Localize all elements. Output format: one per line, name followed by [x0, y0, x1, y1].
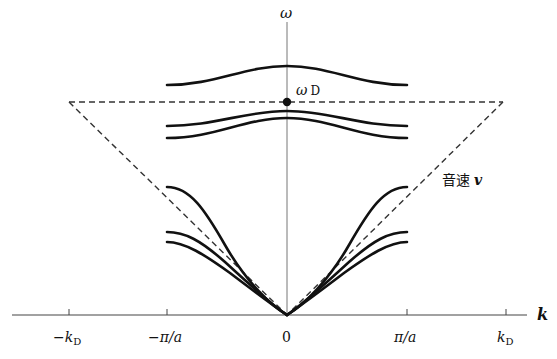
sound-speed-label: 音速v [442, 172, 483, 188]
tick-label-neg-kD: −kD [53, 329, 81, 347]
tick-label-pi-a: π/a [393, 329, 416, 345]
tick-label-zero: 0 [282, 329, 291, 345]
acoustic-branch-upper-right [287, 187, 407, 315]
debye-frequency-point [283, 98, 291, 106]
acoustic-branch-lower-right [287, 242, 407, 315]
sound-speed-line-left [69, 102, 287, 315]
acoustic-branch-upper-left [167, 187, 287, 315]
sound-speed-line-right [287, 102, 503, 315]
dispersion-diagram: ω k −kD −π/a 0 π/a kD ωD 音速v [0, 0, 557, 359]
k-axis-label: k [537, 305, 548, 324]
acoustic-branch-lower-left [167, 242, 287, 315]
tick-label-kD: kD [497, 329, 514, 347]
tick-label-neg-pi-a: −π/a [148, 329, 182, 345]
debye-frequency-label: ωD [296, 82, 320, 98]
omega-axis-label: ω [280, 4, 292, 22]
